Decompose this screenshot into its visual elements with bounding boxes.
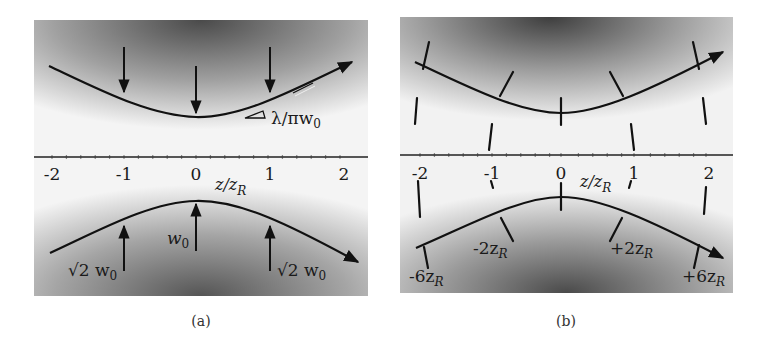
panel-b-top-background [400, 17, 733, 155]
panel-b: -2 -1 0 1 2 z/zR [400, 17, 733, 329]
panel-a: -2 -1 0 1 2 z/zR λ/πw0 w0 √2 w0 √2 w0 (a… [34, 20, 368, 329]
panel-a-top-background [34, 20, 368, 157]
tick-label: 2 [704, 163, 715, 183]
tick-label: 1 [265, 164, 276, 184]
tick-label: -2 [44, 164, 61, 184]
tick-label: 1 [629, 163, 640, 183]
panel-b-caption: (b) [556, 313, 576, 329]
tick-label: 0 [191, 164, 202, 184]
figure: -2 -1 0 1 2 z/zR λ/πw0 w0 √2 w0 √2 w0 (a… [0, 0, 761, 345]
tick-label: 0 [556, 163, 567, 183]
tick-label: -1 [116, 164, 133, 184]
tick-label: -1 [484, 163, 501, 183]
tick-label: -2 [412, 163, 429, 183]
tick-label: 2 [339, 164, 350, 184]
panel-a-minor-ticks [52, 156, 340, 158]
panel-a-caption: (a) [191, 313, 210, 329]
